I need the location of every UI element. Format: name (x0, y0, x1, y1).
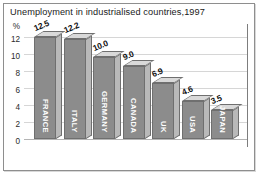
bar-side-face (145, 62, 151, 139)
y-axis-tick-label: 6 (15, 86, 20, 95)
bar-category-label: FRANCE (41, 99, 50, 133)
bar-side-face (86, 35, 92, 139)
bar-side-face (115, 53, 121, 139)
y-axis-tick-label: 10 (11, 52, 20, 61)
chart-title: Unemployment in industrialised countries… (10, 7, 205, 17)
bar-usa[interactable]: USA (182, 101, 204, 139)
bar-france[interactable]: FRANCE (34, 37, 56, 139)
bar-canada[interactable]: CANADA (123, 66, 145, 139)
bar-side-face (204, 97, 210, 139)
plot-right-border (247, 24, 248, 147)
bar-side-face (233, 106, 239, 139)
y-axis-tick-label: 0 (15, 137, 20, 146)
y-axis-tick-label: 2 (15, 120, 20, 129)
y-axis-tick-label: 4 (15, 103, 20, 112)
y-axis-tick-label: 12 (11, 35, 20, 44)
bar-italy[interactable]: ITALY (64, 39, 86, 139)
bar-category-label: UK (159, 121, 168, 133)
bar-side-face (174, 79, 180, 139)
bar-category-label: CANADA (129, 98, 138, 133)
bar-uk[interactable]: UK (152, 83, 174, 139)
axis-baseline (24, 139, 248, 140)
bar-side-face (56, 33, 62, 139)
bar-category-label: ITALY (70, 110, 79, 133)
bar-japan[interactable]: JAPAN (211, 110, 233, 139)
bar-category-label: USA (188, 116, 197, 133)
y-axis-unit-label: % (13, 22, 20, 31)
bar-germany[interactable]: GERMANY (93, 57, 115, 139)
y-axis: % 12 10 8 6 4 2 0 (0, 22, 22, 148)
bar-category-label: JAPAN (218, 106, 227, 133)
bar-category-label: GERMANY (100, 91, 109, 133)
y-axis-tick-label: 8 (15, 69, 20, 78)
chart-screenshot: Unemployment in industrialised countries… (0, 0, 259, 175)
